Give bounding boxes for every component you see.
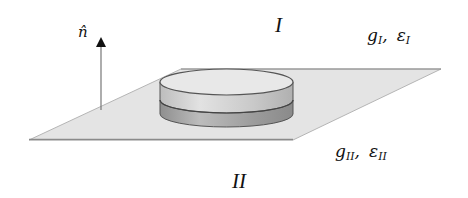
epsilon-subscript: I [405,34,411,47]
region-I-params: gI,εI [367,25,411,47]
epsilon-symbol: ε [397,25,406,45]
separator: , [382,25,387,45]
normal-vector: n̂ [78,23,106,110]
region-II: II gII,εII [231,141,387,193]
g-symbol: g [367,25,378,45]
region-I-label: I [274,13,283,37]
interface-diagram: n̂ I gI,εI II gII,εII [0,0,468,198]
epsilon-symbol: ε [369,141,378,161]
arrow-up-icon [96,37,106,47]
region-II-label: II [231,169,247,193]
normal-vector-label: n̂ [78,23,88,41]
region-I: I gI,εI [274,13,411,47]
separator: , [355,141,360,161]
g-symbol: g [335,141,346,161]
cylinder-disk [160,69,293,127]
epsilon-subscript: II [377,150,387,163]
region-II-params: gII,εII [335,141,387,163]
cylinder-top-face [160,69,293,95]
